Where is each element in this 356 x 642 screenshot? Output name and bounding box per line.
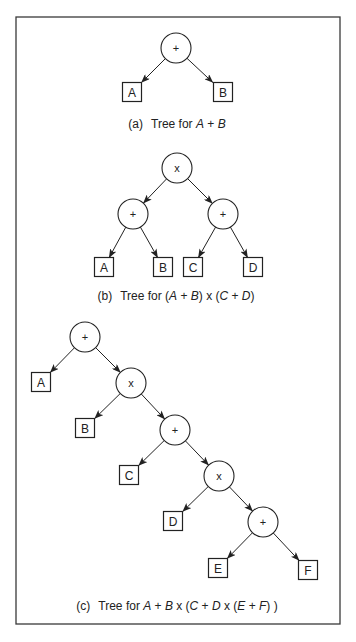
operator-node: x: [204, 461, 234, 491]
operator-node: +: [248, 507, 278, 537]
operand-node: A: [95, 258, 114, 277]
operand-label: B: [81, 422, 89, 436]
caption-expr-part: ): [251, 289, 255, 303]
caption-a: (a)Tree for A + B: [128, 117, 225, 131]
edge-arrow: [230, 227, 247, 257]
caption-expr-part: ) x (: [199, 289, 220, 303]
edge-arrow: [187, 58, 213, 82]
edge-arrow: [143, 179, 166, 203]
caption-expr-part: +: [177, 289, 191, 303]
operator-label: x: [128, 377, 134, 389]
edge-arrow: [50, 348, 74, 373]
operator-label: +: [220, 208, 226, 220]
operand-node: B: [214, 83, 233, 102]
operand-label: A: [128, 86, 136, 100]
operator-label: x: [216, 470, 222, 482]
edge-arrow: [140, 227, 157, 257]
caption-expr-part: A: [168, 289, 177, 303]
edge-arrow: [185, 441, 208, 465]
operand-node: F: [299, 561, 318, 580]
operator-node: +: [70, 322, 100, 352]
operator-node: +: [161, 33, 191, 63]
operand-node: D: [164, 512, 183, 531]
caption-expr-part: B: [165, 599, 173, 613]
operand-label: A: [37, 376, 45, 390]
operand-node: E: [209, 559, 228, 578]
caption-expr-part: A: [142, 599, 151, 613]
edge-arrow: [139, 440, 165, 465]
caption-expr-part: A: [195, 117, 204, 131]
caption-expr-part: B: [191, 289, 199, 303]
edge-arrow: [229, 487, 252, 511]
caption-expr-part: C: [219, 289, 228, 303]
caption-label: (a): [128, 117, 143, 131]
caption-expr-part: +: [228, 289, 242, 303]
operator-label: +: [82, 331, 88, 343]
edge-arrow: [198, 227, 215, 257]
edge-arrow: [183, 486, 209, 511]
operator-label: +: [260, 516, 266, 528]
caption-label: (c): [76, 599, 90, 613]
operand-label: D: [169, 515, 178, 529]
operator-node: +: [208, 199, 238, 229]
tree-c: +AxB+CxD+EF(c)Tree for A + B x (C + D x …: [32, 322, 318, 613]
operator-label: +: [173, 42, 179, 54]
operand-label: E: [214, 562, 222, 576]
operand-node: D: [244, 258, 263, 277]
operand-label: D: [249, 261, 258, 275]
edge-arrow: [141, 394, 164, 419]
caption-b: (b)Tree for (A + B) x (C + D): [98, 289, 255, 303]
caption-expr-part: C: [190, 599, 199, 613]
edge-arrow: [188, 179, 213, 204]
caption-expr-part: B: [218, 117, 226, 131]
operand-label: A: [100, 261, 108, 275]
operand-label: B: [219, 86, 227, 100]
operator-label: x: [174, 162, 180, 174]
caption-expr-part: ) ): [266, 599, 277, 613]
caption-text: Tree for: [120, 289, 165, 303]
tree-b: x++ABCD(b)Tree for (A + B) x (C + D): [95, 153, 263, 303]
caption-c: (c)Tree for A + B x (C + D x (E + F) ): [76, 599, 277, 613]
operand-label: F: [304, 564, 311, 578]
caption-expr-part: D: [242, 289, 251, 303]
expression-tree-figure: +AB(a)Tree for A + Bx++ABCD(b)Tree for (…: [0, 0, 356, 642]
edge-arrow: [227, 533, 252, 559]
caption-expr-part: x (: [173, 599, 190, 613]
operator-node: x: [116, 368, 146, 398]
operator-node: +: [160, 415, 190, 445]
caption-text: Tree for: [151, 117, 196, 131]
caption-label: (b): [98, 289, 113, 303]
operand-node: A: [32, 373, 51, 392]
tree-a: +AB(a)Tree for A + B: [123, 33, 233, 131]
edge-arrow: [273, 533, 299, 561]
caption-expr-part: +: [245, 599, 259, 613]
caption-expr-part: D: [212, 599, 221, 613]
operand-label: C: [189, 261, 198, 275]
operand-node: B: [154, 258, 173, 277]
caption-expr-part: +: [151, 599, 165, 613]
caption-expr-part: +: [198, 599, 212, 613]
operator-node: x: [162, 153, 192, 183]
caption-expr-part: +: [204, 117, 218, 131]
operator-node: +: [118, 199, 148, 229]
edge-arrow: [109, 227, 126, 257]
operand-label: C: [125, 469, 134, 483]
operator-label: +: [130, 208, 136, 220]
caption-text: Tree for: [98, 599, 143, 613]
edge-arrow: [96, 348, 121, 373]
operand-node: B: [76, 419, 95, 438]
edge-arrow: [142, 59, 166, 83]
trees-layer: +AB(a)Tree for A + Bx++ABCD(b)Tree for (…: [32, 33, 318, 613]
operand-node: A: [123, 83, 142, 102]
operand-node: C: [120, 466, 139, 485]
figure-frame: [16, 17, 340, 624]
operator-label: +: [172, 424, 178, 436]
operand-node: C: [184, 258, 203, 277]
operand-label: B: [159, 261, 167, 275]
caption-expr-part: x (: [221, 599, 238, 613]
edge-arrow: [95, 393, 121, 418]
